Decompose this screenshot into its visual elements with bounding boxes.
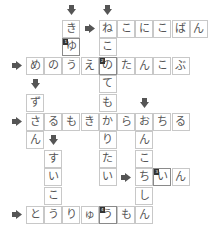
arrow-down-icon bbox=[135, 94, 153, 112]
grid-cell[interactable]: ば bbox=[172, 20, 190, 38]
arrow-down-icon bbox=[99, 1, 117, 19]
arrow-down-icon bbox=[26, 75, 44, 93]
grid-cell[interactable]: ん bbox=[26, 131, 44, 149]
cell-letter: こ bbox=[139, 152, 150, 165]
grid-cell[interactable]: ぶ bbox=[172, 57, 190, 75]
answer-cell[interactable]: ゆ1 bbox=[62, 38, 80, 56]
cell-letter: も bbox=[121, 208, 132, 221]
grid-cell[interactable]: い bbox=[99, 168, 117, 186]
grid-cell[interactable]: に bbox=[135, 20, 153, 38]
cell-letter: し bbox=[139, 189, 150, 202]
answer-number-badge: 3 bbox=[154, 169, 159, 175]
grid-cell[interactable]: ね bbox=[99, 20, 117, 38]
cell-letter: め bbox=[30, 59, 41, 72]
cell-letter: ゅ bbox=[84, 208, 95, 221]
cell-letter: ば bbox=[175, 22, 186, 35]
cell-letter: お bbox=[139, 115, 150, 128]
cell-letter: の bbox=[48, 59, 59, 72]
cell-letter: も bbox=[102, 96, 113, 109]
cell-letter: ち bbox=[157, 115, 168, 128]
cell-letter: か bbox=[102, 115, 113, 128]
grid-cell[interactable]: こ bbox=[153, 57, 171, 75]
cell-letter: こ bbox=[157, 22, 168, 35]
arrow-down-icon bbox=[44, 131, 62, 149]
grid-cell[interactable]: う bbox=[44, 206, 62, 224]
arrow-down-icon bbox=[62, 1, 80, 19]
grid-cell[interactable]: ち bbox=[153, 113, 171, 131]
cell-letter: い bbox=[102, 170, 113, 183]
grid-cell[interactable]: り bbox=[99, 131, 117, 149]
answer-number-badge: 2 bbox=[100, 58, 105, 64]
cell-letter: き bbox=[66, 22, 77, 35]
grid-cell[interactable]: め bbox=[26, 57, 44, 75]
grid-cell[interactable]: ら bbox=[117, 113, 135, 131]
grid-cell[interactable]: た bbox=[99, 150, 117, 168]
grid-cell[interactable]: の bbox=[44, 57, 62, 75]
cell-letter: る bbox=[175, 115, 186, 128]
grid-cell[interactable]: こ bbox=[117, 20, 135, 38]
cell-letter: え bbox=[84, 59, 95, 72]
cell-letter: こ bbox=[157, 59, 168, 72]
cell-letter: こ bbox=[102, 40, 113, 53]
grid-cell[interactable]: る bbox=[44, 113, 62, 131]
cell-letter: う bbox=[66, 59, 77, 72]
answer-number-badge: 4 bbox=[100, 207, 105, 213]
grid-cell[interactable]: か bbox=[99, 113, 117, 131]
cell-letter: ち bbox=[139, 170, 150, 183]
cell-letter: い bbox=[48, 170, 59, 183]
grid-cell[interactable]: ん bbox=[190, 20, 208, 38]
grid-cell[interactable]: ち bbox=[135, 168, 153, 186]
cell-letter: ん bbox=[30, 133, 41, 146]
cell-letter: こ bbox=[121, 22, 132, 35]
grid-cell[interactable]: す bbox=[44, 150, 62, 168]
cell-letter: ん bbox=[193, 22, 204, 35]
grid-cell[interactable]: こ bbox=[99, 38, 117, 56]
grid-cell[interactable]: て bbox=[99, 75, 117, 93]
grid-cell[interactable]: い bbox=[44, 168, 62, 186]
grid-cell[interactable]: こ bbox=[44, 187, 62, 205]
grid-cell[interactable]: ん bbox=[135, 57, 153, 75]
grid-cell[interactable]: ん bbox=[172, 168, 190, 186]
grid-cell[interactable]: さ bbox=[26, 113, 44, 131]
answer-cell[interactable]: い3 bbox=[153, 168, 171, 186]
cell-letter: た bbox=[121, 59, 132, 72]
grid-cell[interactable]: り bbox=[62, 206, 80, 224]
grid-cell[interactable]: る bbox=[172, 113, 190, 131]
arrow-right-icon bbox=[8, 113, 26, 131]
arrow-right-icon bbox=[8, 206, 26, 224]
cell-letter: ん bbox=[139, 59, 150, 72]
grid-cell[interactable]: た bbox=[117, 57, 135, 75]
grid-cell[interactable]: お bbox=[135, 113, 153, 131]
grid-cell[interactable]: ず bbox=[26, 94, 44, 112]
grid-cell[interactable]: と bbox=[26, 206, 44, 224]
grid-cell[interactable]: う bbox=[62, 57, 80, 75]
cell-letter: ん bbox=[139, 208, 150, 221]
arrow-right-icon bbox=[8, 57, 26, 75]
grid-cell[interactable]: き bbox=[81, 113, 99, 131]
grid-cell[interactable]: え bbox=[81, 57, 99, 75]
cell-letter: す bbox=[48, 152, 59, 165]
answer-cell[interactable]: の2 bbox=[99, 57, 117, 75]
grid-cell[interactable]: ん bbox=[135, 206, 153, 224]
cell-letter: と bbox=[30, 208, 41, 221]
cell-letter: る bbox=[48, 115, 59, 128]
grid-cell[interactable]: こ bbox=[135, 150, 153, 168]
grid-cell[interactable]: も bbox=[117, 206, 135, 224]
grid-cell[interactable]: き bbox=[62, 20, 80, 38]
cell-letter: り bbox=[102, 133, 113, 146]
cell-letter: き bbox=[84, 115, 95, 128]
grid-cell[interactable]: ん bbox=[135, 131, 153, 149]
cell-letter: た bbox=[102, 152, 113, 165]
grid-cell[interactable]: こ bbox=[153, 20, 171, 38]
answer-cell[interactable]: う4 bbox=[99, 206, 117, 224]
grid-cell[interactable]: も bbox=[62, 113, 80, 131]
cell-letter: り bbox=[66, 208, 77, 221]
grid-cell[interactable]: も bbox=[99, 94, 117, 112]
cell-letter: さ bbox=[30, 115, 41, 128]
cell-letter: に bbox=[139, 22, 150, 35]
grid-cell[interactable]: ゅ bbox=[81, 206, 99, 224]
cell-letter: ら bbox=[121, 115, 132, 128]
arrow-right-icon bbox=[81, 20, 99, 38]
grid-cell[interactable]: し bbox=[135, 187, 153, 205]
cell-letter: て bbox=[102, 77, 113, 90]
